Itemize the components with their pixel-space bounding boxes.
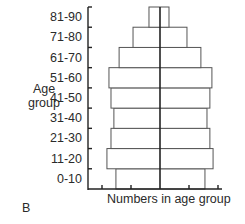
y-tick-label: 71-80 [22, 30, 82, 44]
bar-81-90 [149, 7, 169, 27]
y-tick-label: 51-60 [22, 71, 82, 85]
y-tick-label: 41-50 [22, 91, 82, 105]
population-pyramid-chart: Age group 0-1011-2021-3031-4041-5051-606… [0, 0, 245, 224]
y-tick-label: 0-10 [22, 172, 82, 186]
panel-label: B [22, 201, 30, 215]
y-tick-label: 31-40 [22, 111, 82, 125]
y-tick-label: 21-30 [22, 131, 82, 145]
x-axis-title: Numbers in age group [107, 192, 231, 206]
y-tick-label: 61-70 [22, 51, 82, 65]
y-tick-label: 11-20 [22, 152, 82, 166]
y-tick-label: 81-90 [22, 10, 82, 24]
